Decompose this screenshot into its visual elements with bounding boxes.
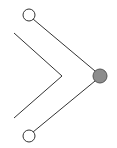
top-edge (33, 19, 95, 71)
chevron-shape (14, 33, 62, 118)
target-node (93, 69, 107, 83)
bottom-edge (33, 81, 95, 132)
top-node (23, 9, 35, 21)
diagram-canvas (0, 0, 117, 148)
bottom-node (23, 130, 35, 142)
